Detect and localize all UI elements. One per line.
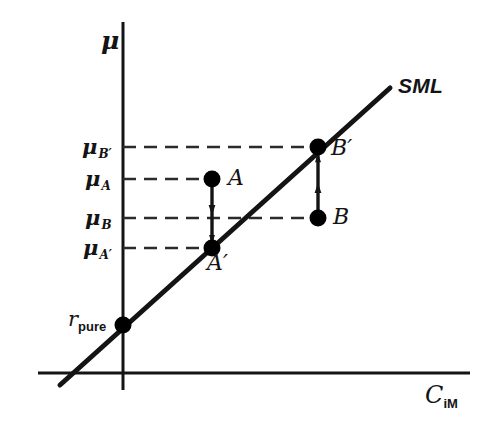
tick-label-mu-a-prime: μA′	[83, 237, 111, 258]
diagram-canvas	[0, 0, 496, 426]
tick-base-mu-a: μ	[85, 166, 100, 191]
point-B	[310, 210, 327, 227]
tick-label-mu-a: μA	[85, 168, 110, 189]
tick-sub-mu-b-prime: B′	[98, 147, 111, 161]
point-r-pure	[115, 317, 132, 334]
arrow-a-to-a-prime-midhead	[209, 205, 216, 215]
intercept-base: r	[68, 307, 78, 331]
point-label-A: A	[228, 167, 244, 189]
tick-sub-mu-a: A	[101, 179, 110, 193]
tick-label-mu-b: μB	[85, 207, 111, 228]
point-label-B: B	[333, 206, 349, 228]
sml-diagram-figure: μ μB′ μA μB μA′ rpure A A′ B B′ SML CiM	[0, 0, 496, 426]
point-A	[204, 171, 221, 188]
tick-base-mu-a-prime: μ	[83, 235, 98, 260]
point-B-prime	[310, 139, 327, 156]
tick-sub-mu-b: B	[101, 218, 111, 232]
point-label-B-prime: B′	[331, 137, 352, 159]
tick-label-mu-b-prime: μB′	[82, 136, 111, 157]
x-axis-label: CiM	[425, 383, 458, 407]
arrow-b-to-b-prime-midhead	[315, 183, 322, 193]
tick-base-mu-b-prime: μ	[82, 134, 97, 159]
tick-sub-mu-a-prime: A′	[99, 248, 111, 262]
x-axis-sub: iM	[443, 396, 457, 411]
point-label-A-prime: A′	[207, 252, 228, 274]
y-axis-label: μ	[101, 28, 119, 53]
intercept-label-r-pure: rpure	[68, 309, 106, 330]
tick-base-mu-b: μ	[85, 205, 100, 230]
intercept-sub: pure	[78, 319, 106, 334]
sml-label: SML	[398, 75, 443, 96]
x-axis-base: C	[425, 381, 443, 409]
